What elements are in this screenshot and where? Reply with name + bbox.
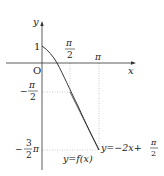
svg-text:2: 2 [30,92,36,102]
function-graph: y x O 1 π 2 π − π 2 − 3 2 π y=f(x) y=−2x… [0,0,164,176]
svg-text:π: π [32,144,40,154]
svg-text:2: 2 [151,149,156,158]
guide-lines [42,63,99,150]
svg-text:π: π [65,38,73,48]
y-tick-one: 1 [34,41,40,52]
svg-text:−: − [15,144,23,154]
svg-text:y=−2x+: y=−2x+ [100,142,142,153]
origin-label: O [33,65,41,76]
tangent-label: y=−2x+ π 2 [100,138,158,158]
y-axis-arrow-icon [40,21,43,26]
x-tick-pi: π [94,52,102,62]
y-axis-label: y [32,16,39,27]
svg-text:π: π [150,138,157,147]
x-tick-half-pi: π 2 [65,38,75,60]
y-tick-neg-half-pi: − π 2 [20,80,38,102]
function-curve [42,46,99,150]
x-axis-label: x [128,65,134,76]
svg-text:2: 2 [26,150,32,160]
svg-text:3: 3 [26,138,32,148]
svg-text:π: π [28,80,36,90]
curve-label: y=f(x) [62,153,93,164]
y-tick-neg-three-half-pi: − 3 2 π [15,138,40,160]
svg-text:−: − [20,86,28,96]
svg-text:2: 2 [67,50,73,60]
